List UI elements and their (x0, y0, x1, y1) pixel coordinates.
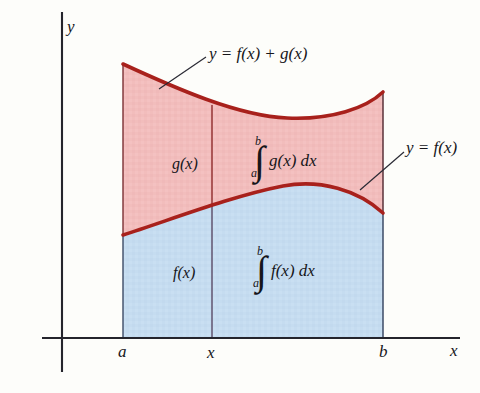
integral-expression-g: ∫bag(x) dx (254, 140, 322, 180)
integral-limits-f: ba (256, 258, 265, 282)
integral-lower-limit-g: a (251, 167, 260, 179)
integral-upper-limit-g: b (255, 135, 264, 147)
integrand-g: g(x) dx (269, 152, 317, 169)
x-axis-label: x (450, 342, 458, 359)
figure-canvas: y x a x b y = f(x) + g(x) y = f(x) g(x) … (0, 0, 480, 393)
integral-expression-f: ∫baf(x) dx (256, 250, 320, 290)
tick-label-b: b (379, 343, 388, 360)
y-axis-label: y (67, 18, 75, 35)
curve-label-f: y = f(x) (406, 139, 457, 156)
integral-limits-g: ba (254, 148, 263, 172)
integral-lower-limit-f: a (253, 277, 262, 289)
region-label-f: f(x) (173, 265, 195, 281)
region-label-g: g(x) (172, 156, 198, 172)
integrand-f: f(x) dx (271, 262, 315, 279)
tick-label-x: x (207, 344, 215, 361)
curve-label-f-plus-g: y = f(x) + g(x) (209, 45, 307, 62)
integral-upper-limit-f: b (257, 245, 266, 257)
tick-label-a: a (118, 343, 127, 360)
leader-line-upper (159, 57, 206, 89)
